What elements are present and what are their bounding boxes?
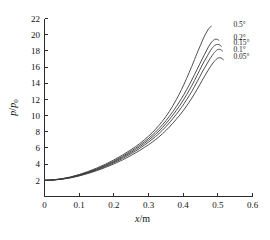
x-tick-label: 0.5 bbox=[212, 200, 224, 210]
y-tick-label: 20 bbox=[31, 30, 41, 40]
y-tick-label: 18 bbox=[31, 46, 41, 56]
data-curve bbox=[45, 39, 219, 180]
y-tick-label: 12 bbox=[31, 95, 40, 105]
x-tick-label: 0.3 bbox=[143, 200, 155, 210]
x-tick-label: 0.4 bbox=[178, 200, 190, 210]
y-tick-label: 8 bbox=[36, 127, 41, 137]
y-tick-label: 16 bbox=[31, 62, 41, 72]
series-annotations: 0.5°0.2°0.15°0.1°0.05° bbox=[233, 20, 249, 61]
data-curve bbox=[45, 49, 223, 180]
chart-plot: 00.10.20.30.40.50.6 246810121416182022 0… bbox=[0, 0, 270, 240]
x-axis-ticks: 00.10.20.30.40.50.6 bbox=[42, 193, 258, 210]
y-tick-label: 22 bbox=[31, 14, 40, 24]
x-tick-label: 0.6 bbox=[247, 200, 259, 210]
x-tick-label: 0.1 bbox=[74, 200, 85, 210]
figure-container: 00.10.20.30.40.50.6 246810121416182022 0… bbox=[0, 0, 270, 240]
data-curve bbox=[45, 44, 222, 180]
x-axis-title: x/m bbox=[134, 213, 150, 224]
x-tick-label: 0.2 bbox=[108, 200, 119, 210]
y-axis-title: p/p0 bbox=[7, 99, 20, 117]
data-curves bbox=[45, 26, 224, 180]
axes-group bbox=[45, 19, 253, 197]
series-label-005: 0.05° bbox=[233, 52, 249, 61]
y-tick-label: 2 bbox=[36, 176, 41, 186]
y-tick-label: 10 bbox=[31, 111, 41, 121]
series-label-05: 0.5° bbox=[233, 20, 245, 29]
y-tick-label: 14 bbox=[31, 78, 41, 88]
x-tick-label: 0 bbox=[42, 200, 47, 210]
y-tick-label: 4 bbox=[36, 159, 41, 169]
y-axis-ticks: 246810121416182022 bbox=[31, 14, 48, 186]
y-tick-label: 6 bbox=[36, 143, 41, 153]
